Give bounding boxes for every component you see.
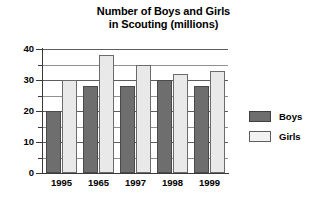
legend-item-boys: Boys (249, 110, 321, 122)
y-axis-tick-major (36, 49, 43, 50)
y-axis-tick-minor (38, 158, 43, 159)
y-axis-tick-major (36, 80, 43, 81)
bar-group (46, 49, 77, 173)
y-axis-tick-label: 0 (4, 168, 34, 178)
legend-swatch-boys-icon (249, 111, 271, 122)
chart-title: Number of Boys and Girls in Scouting (mi… (0, 5, 327, 31)
y-axis-tick-minor (38, 127, 43, 128)
bar-boys (157, 80, 172, 173)
y-axis-labels: 010203040 (0, 0, 34, 209)
x-axis-tick-label: 1997 (116, 177, 156, 188)
x-axis-line (42, 173, 229, 174)
y-axis-tick-label: 40 (4, 44, 34, 54)
bar-group (194, 49, 225, 173)
bar-group (157, 49, 188, 173)
bar-girls (62, 80, 77, 173)
legend-label-boys: Boys (279, 111, 302, 122)
x-axis-tick-label: 1965 (79, 177, 119, 188)
y-axis-tick-major (36, 173, 43, 174)
y-axis-tick-label: 30 (4, 75, 34, 85)
bar-boys (120, 86, 135, 173)
legend-item-girls: Girls (249, 130, 321, 142)
chart-legend: Boys Girls (249, 110, 321, 150)
bar-group (83, 49, 114, 173)
bar-girls (173, 74, 188, 173)
y-axis-tick-major (36, 142, 43, 143)
bar-boys (83, 86, 98, 173)
chart-title-line-1: Number of Boys and Girls (0, 5, 327, 18)
plot-area (43, 49, 228, 173)
y-axis-tick-label: 10 (4, 137, 34, 147)
bar-girls (210, 71, 225, 173)
legend-swatch-girls-icon (249, 131, 271, 142)
bar-boys (46, 111, 61, 173)
bar-boys (194, 86, 209, 173)
x-axis-tick-label: 1995 (42, 177, 82, 188)
bar-girls (99, 55, 114, 173)
bar-chart: Number of Boys and Girls in Scouting (mi… (0, 0, 327, 209)
y-axis-tick-minor (38, 96, 43, 97)
chart-title-line-2: in Scouting (millions) (0, 18, 327, 31)
x-axis-tick-label: 1999 (190, 177, 230, 188)
y-axis-tick-major (36, 111, 43, 112)
x-axis-tick-label: 1998 (153, 177, 193, 188)
y-axis-tick-minor (38, 65, 43, 66)
bar-group (120, 49, 151, 173)
bar-girls (136, 65, 151, 174)
y-axis-tick-label: 20 (4, 106, 34, 116)
legend-label-girls: Girls (279, 131, 301, 142)
